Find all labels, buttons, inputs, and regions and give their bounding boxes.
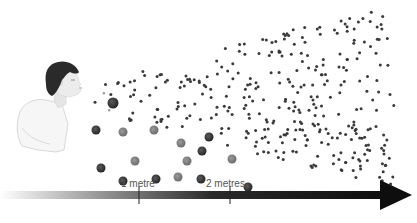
small-droplet [376,38,379,41]
small-droplet [365,90,368,93]
large-droplet [205,133,214,142]
small-droplet [308,109,311,112]
small-droplet [282,33,285,36]
small-droplet [238,50,241,53]
small-droplet [327,132,330,135]
small-droplet [286,128,289,131]
large-droplet [198,147,207,156]
large-droplet [197,175,206,184]
small-droplet [109,93,112,96]
small-droplet [210,96,213,99]
small-droplet [353,39,356,42]
small-droplet [316,28,319,31]
small-droplet [306,54,309,57]
small-droplet [347,124,350,127]
small-droplet [226,144,229,147]
small-droplet [355,132,358,135]
small-droplet [278,106,281,109]
large-droplet [92,126,101,135]
small-droplet [275,149,278,152]
small-droplet [314,165,317,168]
small-droplet [264,135,267,138]
small-droplet [290,53,293,56]
label-1-metre: 1 metre [121,178,155,189]
small-droplet [317,123,320,126]
small-droplet [363,153,366,156]
small-droplet [278,71,281,74]
small-droplet [305,144,308,147]
small-droplet [249,83,252,86]
small-droplet [245,136,248,139]
small-droplet [313,124,316,127]
small-droplet [237,72,240,75]
small-droplet [340,20,343,23]
small-droplet [365,144,368,147]
small-droplet [183,85,186,88]
small-droplet [322,115,325,118]
small-droplet [103,92,105,94]
small-droplet [243,96,246,99]
small-droplet [351,126,354,129]
small-droplet [131,111,134,114]
small-droplet [270,51,273,54]
small-droplet [206,75,209,78]
small-droplet [277,156,280,159]
small-droplet [339,151,342,154]
small-droplet [291,150,294,153]
small-droplet [296,91,299,94]
small-droplet [300,52,303,55]
small-droplet [346,58,349,61]
small-droplet [355,108,358,111]
small-droplet [340,84,343,87]
small-droplet [247,132,250,135]
small-droplet [267,151,270,154]
small-droplet [346,25,349,28]
small-droplet [356,57,359,60]
small-droplet [193,103,196,106]
small-droplet [391,176,394,179]
small-droplet [331,136,334,139]
small-droplet [265,118,268,121]
small-droplet [248,95,251,98]
small-droplet [247,113,250,116]
small-droplet [244,88,247,91]
small-droplet [153,116,156,119]
small-droplet [274,40,277,43]
small-droplet [343,80,346,83]
small-droplet [244,104,247,107]
small-droplet [314,114,317,117]
small-droplet [288,107,291,110]
small-droplet [261,137,264,140]
small-droplet [366,159,369,162]
large-droplet [119,128,128,137]
small-droplet [198,79,201,82]
small-droplet [344,133,347,136]
small-droplet [293,120,296,123]
small-droplet [224,47,227,50]
small-droplet [332,154,335,157]
small-droplet [133,88,136,91]
small-droplet [339,52,342,55]
small-droplet [314,69,317,72]
small-droplet [143,74,146,77]
small-droplet [288,81,291,84]
small-droplet [254,87,257,90]
small-droplet [376,26,379,29]
small-droplet [116,82,119,85]
small-droplet [227,127,230,130]
small-droplet [371,99,374,102]
small-droplet [226,109,229,112]
small-droplet [336,32,339,35]
small-droplet [310,95,313,98]
small-droplet [337,113,340,116]
small-droplet [301,60,304,63]
small-droplet [258,52,261,55]
small-droplet [209,88,212,91]
small-droplet [159,73,162,76]
small-droplet [254,145,257,148]
small-droplet [385,138,388,141]
small-droplet [216,106,219,109]
small-droplet [369,20,372,23]
small-droplet [344,22,347,25]
small-droplet [369,45,372,48]
